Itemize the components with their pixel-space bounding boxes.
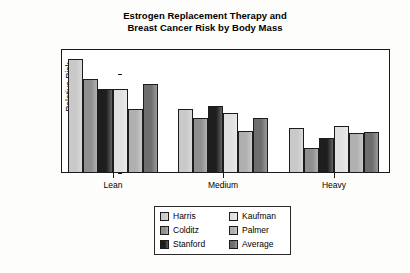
legend-label-palmer: Palmer <box>242 226 269 235</box>
x-axis-label-heavy: Heavy <box>289 180 379 190</box>
bar-group-heavy <box>289 49 379 173</box>
legend-item-colditz[interactable]: Colditz <box>160 224 221 236</box>
bar-colditz-medium <box>193 118 208 173</box>
bar-palmer-heavy <box>349 133 364 173</box>
legend-label-average: Average <box>242 240 274 249</box>
legend-swatch-palmer <box>229 226 238 235</box>
bar-kaufman-medium <box>223 113 238 173</box>
chart-figure: Estrogen Replacement Therapy and Breast … <box>0 0 410 273</box>
legend-column-right: KaufmanPalmerAverage <box>229 210 276 250</box>
legend-item-kaufman[interactable]: Kaufman <box>229 210 276 222</box>
bar-stanford-medium <box>208 106 223 173</box>
legend-label-harris: Harris <box>173 212 221 221</box>
legend-swatch-average <box>229 240 238 249</box>
chart-title-line-2: Breast Cancer Risk by Body Mass <box>0 22 410 34</box>
x-tick <box>113 173 114 178</box>
legend-label-stanford: Stanford <box>173 240 221 249</box>
bar-palmer-medium <box>238 131 253 173</box>
legend-columns: HarrisColditzStanford KaufmanPalmerAvera… <box>160 210 285 250</box>
chart-title-line-1: Estrogen Replacement Therapy and <box>0 10 410 22</box>
legend-item-average[interactable]: Average <box>229 238 276 250</box>
x-tick <box>334 173 335 178</box>
bar-colditz-lean <box>83 79 98 173</box>
bar-group-lean <box>68 49 158 173</box>
y-tick-mark <box>118 173 122 174</box>
bar-harris-heavy <box>289 128 304 173</box>
bar-palmer-lean <box>128 109 143 173</box>
bar-harris-lean <box>68 59 83 173</box>
bar-stanford-lean <box>98 89 113 173</box>
bar-stanford-heavy <box>319 138 334 173</box>
chart-legend: HarrisColditzStanford KaufmanPalmerAvera… <box>154 206 291 255</box>
x-axis-label-medium: Medium <box>178 180 268 190</box>
bar-kaufman-lean <box>113 89 128 173</box>
bar-average-medium <box>253 118 268 173</box>
legend-item-palmer[interactable]: Palmer <box>229 224 276 236</box>
legend-label-colditz: Colditz <box>173 226 221 235</box>
bar-average-lean <box>143 84 158 173</box>
legend-column-left: HarrisColditzStanford <box>160 210 221 250</box>
legend-swatch-stanford <box>160 240 169 249</box>
plot-area: LeanMediumHeavy <box>61 49 390 173</box>
bar-average-heavy <box>364 132 379 173</box>
bar-harris-medium <box>178 109 193 173</box>
bar-colditz-heavy <box>304 148 319 173</box>
legend-swatch-colditz <box>160 226 169 235</box>
bar-group-medium <box>178 49 268 173</box>
legend-swatch-kaufman <box>229 212 238 221</box>
legend-item-harris[interactable]: Harris <box>160 210 221 222</box>
x-tick <box>223 173 224 178</box>
x-axis-label-lean: Lean <box>68 180 158 190</box>
bar-kaufman-heavy <box>334 126 349 173</box>
legend-item-stanford[interactable]: Stanford <box>160 238 221 250</box>
chart-title: Estrogen Replacement Therapy and Breast … <box>0 10 410 34</box>
legend-swatch-harris <box>160 212 169 221</box>
legend-label-kaufman: Kaufman <box>242 212 276 221</box>
